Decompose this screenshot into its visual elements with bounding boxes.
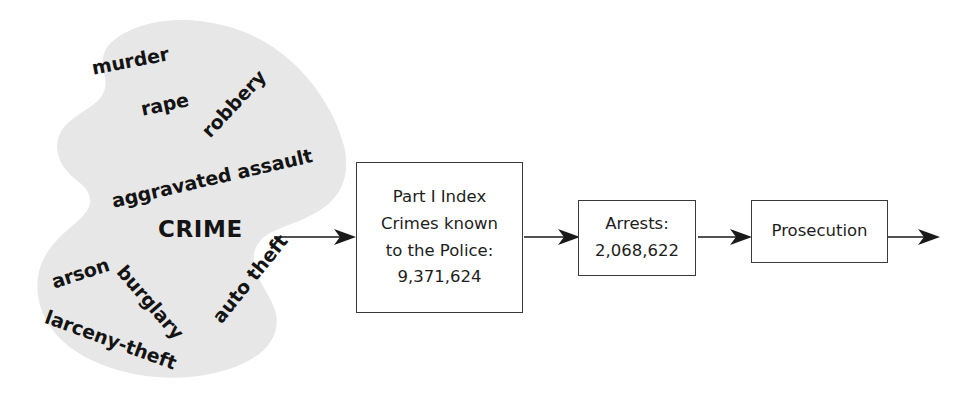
box-index-value: 9,371,624 [398,264,482,291]
crime-blob-center-label: CRIME [158,216,243,242]
box-arrests-label: Arrests: [605,211,669,238]
arrow-crime-to-index-icon [274,226,356,248]
box-arrests-value: 2,068,622 [595,238,679,265]
arrow-index-to-arrests-icon [524,226,580,248]
box-arrests: Arrests: 2,068,622 [578,200,696,276]
arrow-arrests-to-prosecution-icon [698,226,752,248]
box-part-i-index-crimes: Part I Index Crimes known to the Police:… [356,162,523,313]
box-prosecution-label: Prosecution [771,218,867,245]
box-index-line-3: to the Police: [386,238,494,265]
box-index-line-1: Part I Index [393,184,486,211]
diagram-canvas: murder rape robbery aggravated assault C… [0,0,957,411]
box-index-line-2: Crimes known [381,211,498,238]
arrow-prosecution-out-icon [888,226,940,248]
box-prosecution: Prosecution [751,200,888,263]
